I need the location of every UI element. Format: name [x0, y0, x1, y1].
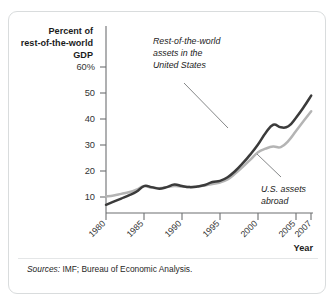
y-axis-title-line-3: GDP	[73, 50, 93, 60]
x-tick-label-1980: 1980	[86, 218, 107, 239]
y-tick-label-40: 40	[85, 114, 95, 124]
line-chart-plot: 60% 50 40 30 20 10 Percent of rest-of-th…	[9, 12, 327, 295]
y-tick-label-60: 60%	[76, 62, 95, 72]
source-label: Sources:	[27, 264, 60, 274]
source-note: Sources: IMF; Bureau of Economic Analysi…	[27, 264, 192, 274]
y-tick-label-10: 10	[85, 192, 95, 202]
annotation-1-line-2: assets in the	[153, 48, 202, 58]
x-tick-label-1990: 1990	[162, 218, 183, 239]
y-tick-label-20: 20	[85, 166, 95, 176]
y-axis-title-line-2: rest-of-the-world	[21, 38, 93, 48]
source-divider	[18, 258, 318, 259]
annotation-1-leader-line	[184, 83, 228, 128]
y-axis-title-line-1: Percent of	[49, 26, 94, 36]
y-tick-label-50: 50	[85, 88, 95, 98]
chart-figure: 60% 50 40 30 20 10 Percent of rest-of-th…	[8, 11, 326, 294]
annotation-1-line-3: United States	[153, 60, 206, 70]
y-axis-ticks	[100, 67, 106, 197]
annotation-1-line-1: Rest-of-the-world	[153, 36, 222, 46]
annotation-2-line-2: abroad	[261, 196, 289, 206]
y-tick-label-30: 30	[85, 140, 95, 150]
annotation-2-leader-line	[257, 154, 281, 177]
source-text: IMF; Bureau of Economic Analysis.	[62, 264, 192, 274]
x-tick-label-2005: 2005	[276, 218, 297, 239]
annotation-2-line-1: U.S. assets	[261, 184, 307, 194]
x-tick-label-1985: 1985	[124, 218, 145, 239]
x-tick-label-2007: 2007	[292, 218, 313, 239]
x-tick-label-2000: 2000	[238, 218, 259, 239]
x-tick-label-1995: 1995	[200, 218, 221, 239]
x-axis-title: Year	[294, 243, 314, 253]
